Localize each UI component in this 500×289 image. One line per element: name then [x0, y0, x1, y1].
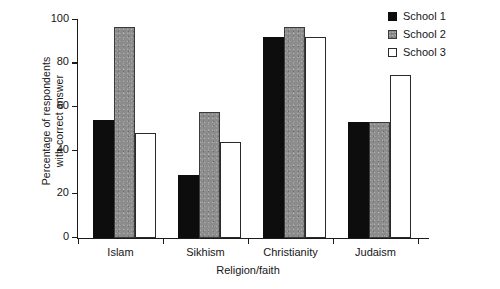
y-axis-tick-label: 20 — [57, 186, 69, 198]
x-axis-tick — [78, 238, 79, 244]
legend-swatch-icon — [388, 12, 397, 21]
bar-christianity-school-3 — [305, 37, 326, 238]
bar-islam-school-1 — [93, 120, 114, 238]
plot-area: 020406080100 IslamSikhismChristianityJud… — [78, 20, 418, 238]
y-axis-tick: 40 — [72, 150, 78, 151]
y-axis-tick: 60 — [72, 106, 78, 107]
legend-item-school-3: School 3 — [388, 46, 446, 58]
category-label-sikhism: Sikhism — [163, 246, 248, 258]
category-label-judaism: Judaism — [333, 246, 418, 258]
category-label-islam: Islam — [78, 246, 163, 258]
bar-sikhism-school-1 — [178, 175, 199, 238]
y-axis-tick: 100 — [72, 19, 78, 20]
y-axis-tick: 20 — [72, 193, 78, 194]
bar-islam-school-2 — [114, 27, 135, 238]
y-axis-tick-label: 60 — [57, 99, 69, 111]
x-axis-title: Religion/faith — [78, 264, 418, 276]
y-axis-title: Percentage of respondents with correct a… — [40, 6, 66, 236]
bar-group — [93, 20, 156, 238]
bar-judaism-school-2 — [369, 122, 390, 238]
bar-group — [263, 20, 326, 238]
bar-judaism-school-1 — [348, 122, 369, 238]
y-axis-tick-label: 80 — [57, 55, 69, 67]
y-axis-line — [77, 19, 78, 238]
bar-group — [178, 20, 241, 238]
legend-item-school-2: School 2 — [388, 28, 446, 40]
bar-christianity-school-2 — [284, 27, 305, 238]
x-axis-line — [77, 238, 429, 239]
y-axis-tick: 80 — [72, 62, 78, 63]
chart-legend: School 1School 2School 3 — [388, 10, 446, 58]
bar-sikhism-school-2 — [199, 112, 220, 238]
x-axis-tick — [163, 238, 164, 244]
y-axis-tick-label: 40 — [57, 143, 69, 155]
legend-label: School 2 — [403, 28, 446, 40]
legend-item-school-1: School 1 — [388, 10, 446, 22]
bar-christianity-school-1 — [263, 37, 284, 238]
x-axis-tick — [248, 238, 249, 244]
legend-swatch-icon — [388, 48, 397, 57]
x-axis-tick — [418, 238, 419, 244]
x-axis-tick — [333, 238, 334, 244]
bar-islam-school-3 — [135, 133, 156, 238]
legend-swatch-icon — [388, 30, 397, 39]
bar-judaism-school-3 — [390, 75, 411, 239]
legend-label: School 3 — [403, 46, 446, 58]
category-label-christianity: Christianity — [248, 246, 333, 258]
bar-chart-figure: Percentage of respondents with correct a… — [0, 0, 500, 289]
legend-label: School 1 — [403, 10, 446, 22]
bar-sikhism-school-3 — [220, 142, 241, 238]
y-axis-tick-label: 0 — [63, 230, 69, 242]
y-axis-tick-label: 100 — [51, 12, 69, 24]
